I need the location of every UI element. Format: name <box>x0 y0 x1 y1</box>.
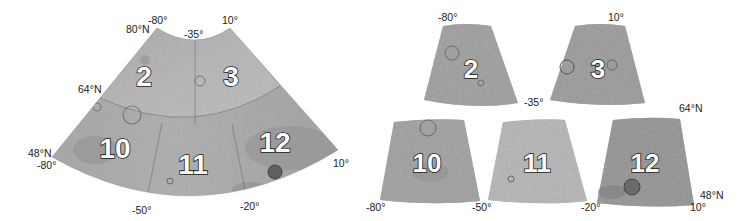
quad-2-label: 2 <box>136 61 152 92</box>
tile-bottom-80-label: -80° <box>366 201 385 213</box>
tile-top-left-lon-label: -80° <box>438 11 457 23</box>
tile-2-label: 2 <box>464 54 478 84</box>
lon-top-center-label: -35° <box>184 28 203 40</box>
lon-bottom-right-label: 10° <box>333 157 349 169</box>
tile-3-label: 3 <box>591 54 605 84</box>
lon-top-left-label: -80° <box>148 14 167 26</box>
tile-48n-label: 48°N <box>700 189 723 201</box>
lon-bottom-left-label: -80° <box>37 159 56 171</box>
lat-64n-label: 64°N <box>78 83 101 95</box>
tile-11-label: 11 <box>523 148 551 178</box>
lat-80n-label: 80°N <box>126 23 149 35</box>
tile-11: 11 <box>488 119 587 203</box>
left-mosaic-map: 2 3 10 11 12 80°N -80° -35° 10° 64°N 48°… <box>28 14 350 220</box>
tile-bottom-50-label: -50° <box>472 201 491 213</box>
quad-11-label: 11 <box>178 149 208 180</box>
tile-bottom-20-label: -20° <box>581 201 600 213</box>
tile-2: 2 <box>424 24 518 106</box>
tile-12-label: 12 <box>631 148 660 178</box>
lon-top-right-label: 10° <box>222 14 238 26</box>
tile-10: 10 <box>380 119 480 203</box>
right-exploded-tiles: 2 3 10 11 1 <box>366 11 723 213</box>
quad-10-label: 10 <box>99 133 130 164</box>
mosaic-figure: 2 3 10 11 12 80°N -80° -35° 10° 64°N 48°… <box>0 0 748 221</box>
tile-12: 12 <box>597 118 694 207</box>
tile-64n-label: 64°N <box>679 102 702 114</box>
lon-bottom-20-label: -20° <box>240 200 259 212</box>
quad-12-label: 12 <box>259 127 290 158</box>
lon-bottom-50-label: -50° <box>132 204 151 216</box>
tile-bottom-10-label: 10° <box>690 201 706 213</box>
tile-mid-lon-label: -35° <box>524 96 543 108</box>
tile-top-right-lon-label: 10° <box>608 11 624 23</box>
tile-10-label: 10 <box>413 148 442 178</box>
lat-48n-label: 48°N <box>28 147 51 159</box>
tile-3: 3 <box>550 24 645 105</box>
quad-3-label: 3 <box>223 61 239 92</box>
